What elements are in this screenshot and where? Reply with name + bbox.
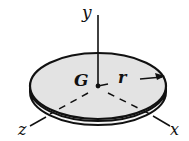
centroid-label: G [74,72,89,89]
radius-label: r [118,70,126,86]
x-axis-label: x [170,122,179,138]
disk-diagram: y G r z x [0,0,189,141]
z-axis-label: z [18,122,26,138]
z-axis-line [30,117,46,126]
diagram-graphic [0,0,189,141]
x-axis-line [153,116,170,126]
y-axis-label: y [82,4,92,21]
